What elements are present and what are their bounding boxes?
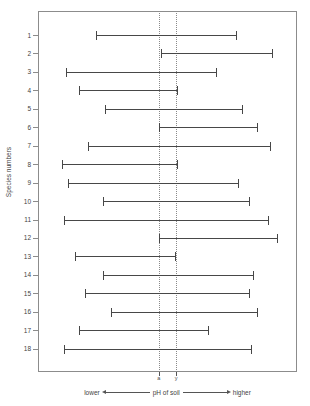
range-bar-line xyxy=(62,164,179,165)
range-bar-species-11 xyxy=(64,216,269,225)
range-cap-high xyxy=(272,49,273,58)
range-bar-line xyxy=(66,72,217,73)
x-axis-high-label: higher xyxy=(231,389,253,396)
range-cap-low xyxy=(111,308,112,317)
range-bar-species-18 xyxy=(64,345,252,354)
y-axis-label-17: 17 xyxy=(0,327,31,334)
range-cap-low xyxy=(85,289,86,298)
range-bar-line xyxy=(111,312,258,313)
y-axis-label-18: 18 xyxy=(0,345,31,352)
range-cap-high xyxy=(257,308,258,317)
range-cap-low xyxy=(103,271,104,280)
range-bar-species-13 xyxy=(75,252,176,261)
range-cap-high xyxy=(277,234,278,243)
range-bar-line xyxy=(103,201,250,202)
y-axis-tick-18 xyxy=(33,349,38,350)
y-axis-label-6: 6 xyxy=(0,124,31,131)
reference-line-y xyxy=(176,11,177,372)
range-cap-low xyxy=(68,179,69,188)
range-cap-low xyxy=(88,142,89,151)
range-cap-high xyxy=(177,160,178,169)
y-axis-tick-2 xyxy=(33,53,38,54)
range-cap-low xyxy=(64,216,65,225)
y-axis-label-14: 14 xyxy=(0,271,31,278)
y-axis-label-2: 2 xyxy=(0,50,31,57)
y-axis-tick-1 xyxy=(33,35,38,36)
y-axis-tick-11 xyxy=(33,220,38,221)
y-axis-tick-12 xyxy=(33,238,38,239)
range-cap-low xyxy=(103,197,104,206)
range-bar-species-10 xyxy=(103,197,250,206)
y-axis-label-11: 11 xyxy=(0,216,31,223)
range-bar-species-9 xyxy=(68,179,239,188)
right-arrow-icon xyxy=(183,389,231,396)
y-axis-tick-5 xyxy=(33,109,38,110)
range-cap-high xyxy=(268,216,269,225)
y-axis-tick-14 xyxy=(33,275,38,276)
range-bar-species-16 xyxy=(111,308,258,317)
range-bar-line xyxy=(105,109,243,110)
range-bar-line xyxy=(96,35,236,36)
range-bar-species-3 xyxy=(66,68,217,77)
y-axis-tick-15 xyxy=(33,293,38,294)
range-bar-species-7 xyxy=(88,142,271,151)
y-axis-label-12: 12 xyxy=(0,234,31,241)
range-cap-low xyxy=(62,160,63,169)
range-cap-high xyxy=(177,86,178,95)
range-cap-low xyxy=(159,234,160,243)
range-bar-line xyxy=(159,127,258,128)
range-cap-low xyxy=(159,123,160,132)
range-bar-line xyxy=(159,238,278,239)
y-axis-tick-16 xyxy=(33,312,38,313)
range-bar-line xyxy=(88,146,271,147)
range-cap-high xyxy=(249,289,250,298)
y-axis-label-13: 13 xyxy=(0,253,31,260)
range-bar-line xyxy=(79,90,178,91)
range-cap-low xyxy=(161,49,162,58)
range-cap-low xyxy=(79,326,80,335)
range-bar-line xyxy=(85,293,249,294)
range-cap-low xyxy=(96,31,97,40)
range-cap-low xyxy=(66,68,67,77)
plot-area xyxy=(38,11,297,372)
range-bar-line xyxy=(79,330,209,331)
range-cap-low xyxy=(105,105,106,114)
y-axis-label-9: 9 xyxy=(0,179,31,186)
range-bar-species-8 xyxy=(62,160,179,169)
range-bar-species-2 xyxy=(161,49,273,58)
range-cap-low xyxy=(64,345,65,354)
range-bar-species-12 xyxy=(159,234,278,243)
range-cap-high xyxy=(257,123,258,132)
reference-line-a xyxy=(159,11,160,372)
y-axis-label-15: 15 xyxy=(0,290,31,297)
y-axis-label-10: 10 xyxy=(0,198,31,205)
range-bar-species-14 xyxy=(103,271,254,280)
y-axis-label-4: 4 xyxy=(0,87,31,94)
y-axis-tick-3 xyxy=(33,72,38,73)
range-cap-high xyxy=(253,271,254,280)
y-axis-tick-17 xyxy=(33,330,38,331)
y-axis-label-8: 8 xyxy=(0,161,31,168)
range-bar-species-4 xyxy=(79,86,178,95)
y-axis-tick-10 xyxy=(33,201,38,202)
y-axis-label-3: 3 xyxy=(0,68,31,75)
x-axis-low-label: lower xyxy=(82,389,102,396)
range-bar-species-5 xyxy=(105,105,243,114)
range-bar-line xyxy=(103,275,254,276)
range-bar-species-6 xyxy=(159,123,258,132)
left-arrow-icon xyxy=(102,389,150,396)
range-bar-line xyxy=(64,349,252,350)
range-bar-line xyxy=(75,256,176,257)
y-axis-tick-8 xyxy=(33,164,38,165)
y-axis-tick-7 xyxy=(33,146,38,147)
y-axis-label-5: 5 xyxy=(0,105,31,112)
x-axis-caption: lower pH of soil higher xyxy=(38,385,297,399)
y-axis-tick-9 xyxy=(33,183,38,184)
ph-range-chart: Species numbers 123456789101112131415161… xyxy=(0,0,310,406)
range-bar-species-15 xyxy=(85,289,249,298)
y-axis-label-16: 16 xyxy=(0,308,31,315)
range-cap-high xyxy=(242,105,243,114)
range-bar-species-17 xyxy=(79,326,209,335)
range-cap-high xyxy=(175,252,176,261)
range-cap-high xyxy=(236,31,237,40)
